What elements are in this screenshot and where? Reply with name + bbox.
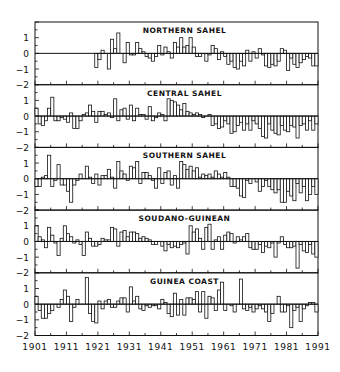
bar [136,42,139,53]
bar [249,116,252,130]
bar [114,49,117,54]
bar [120,232,123,241]
bar [123,230,126,241]
bar [123,174,126,179]
bar [217,174,220,179]
bar [296,116,299,138]
y-tick-label: 1 [23,284,29,294]
bar [57,165,60,179]
bar [70,179,73,203]
bar [217,237,220,242]
bar [243,116,246,130]
bar [315,53,318,66]
bar [98,179,101,185]
bar [107,299,110,304]
bar [302,53,305,59]
bar [167,304,170,313]
bar [167,171,170,179]
bar [63,290,66,304]
x-tick-label: 1901 [22,342,47,352]
bar [139,49,142,54]
bar [296,179,299,184]
bar [123,108,126,116]
bar [126,42,129,53]
bar [205,53,208,61]
x-tick-label: 1911 [54,342,79,352]
bar [287,241,290,247]
bar [117,241,120,246]
bar [154,179,157,188]
bar [280,304,283,312]
bar [142,304,145,310]
bar [293,241,296,246]
bar [164,172,167,178]
bar [173,42,176,53]
bar [246,116,249,124]
bar [217,290,220,304]
bar [123,298,126,304]
bar [293,116,296,127]
bar [283,304,286,312]
bar [76,116,79,129]
bar [139,304,142,309]
bar [296,53,299,67]
bar [211,298,214,304]
bar [177,304,180,315]
bar [177,179,180,188]
bar [170,241,173,247]
bar [309,53,312,58]
bar [233,53,236,67]
bar [63,179,66,185]
bar [170,53,173,58]
bar [79,174,82,179]
bar [243,304,246,309]
bar [252,116,255,121]
bar [280,179,283,203]
bar [126,237,129,242]
bar [136,108,139,116]
bar [136,162,139,179]
bar [117,33,120,53]
bar [309,179,312,195]
bar [243,237,246,242]
bar [66,179,69,192]
bar [189,298,192,304]
bar [211,46,214,54]
bar [202,241,205,249]
bar [227,232,230,241]
bar [192,171,195,179]
bar [114,229,117,242]
bar [51,235,54,241]
bar [246,304,249,310]
y-tick-label: 0 [23,237,29,247]
bar [54,116,57,121]
bar [233,304,236,312]
bar [98,53,101,59]
bar [44,116,47,121]
x-tick-label: 1981 [274,342,299,352]
bar [126,304,129,312]
bar [95,304,98,323]
bar [239,53,242,61]
bar [202,174,205,179]
bar [167,99,170,116]
bar [312,241,315,254]
bar [107,53,110,69]
bar [35,179,38,187]
bar [309,116,312,121]
bar [302,116,305,124]
bar [274,53,277,66]
bar [258,179,261,192]
bar [277,296,280,304]
y-tick-label: −1 [16,127,29,137]
bar [183,104,186,117]
bar [164,116,167,121]
bar [268,53,271,67]
bar [199,304,202,312]
bar [136,296,139,304]
bar [305,116,308,130]
bar [38,179,41,187]
bar [283,179,286,203]
bar [51,304,54,310]
bar [101,111,104,116]
